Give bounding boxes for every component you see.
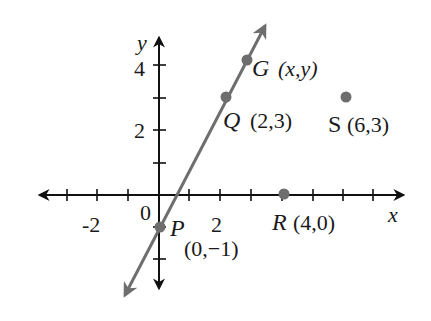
x-axis-label: x xyxy=(387,202,398,227)
label-g: G (x,y) xyxy=(252,55,318,81)
svg-text:(6,3): (6,3) xyxy=(347,112,389,137)
svg-text:(2,3): (2,3) xyxy=(250,108,292,133)
label-r: R (4,0) xyxy=(271,209,335,235)
svg-text:P: P xyxy=(169,215,185,241)
svg-text:(0,−1): (0,−1) xyxy=(184,236,239,261)
label-q: Q (2,3) xyxy=(223,107,292,133)
origin-label: 0 xyxy=(140,200,151,225)
svg-text:G: G xyxy=(252,55,269,81)
y-tick-label-2: 2 xyxy=(134,118,145,143)
label-s: S (6,3) xyxy=(328,111,389,137)
label-p: P (0,−1) xyxy=(169,215,239,261)
x-tick-label-2: 2 xyxy=(211,212,222,237)
svg-text:(4,0): (4,0) xyxy=(293,210,335,235)
y-tick-label-4: 4 xyxy=(134,56,145,81)
svg-text:S: S xyxy=(328,111,341,137)
coordinate-plane: y x 0 -2 2 2 4 G (x,y) Q (2,3) S (6,3) R… xyxy=(0,0,431,321)
y-axis-label: y xyxy=(135,30,147,55)
point-s xyxy=(341,92,352,103)
point-g xyxy=(242,55,253,66)
point-q xyxy=(221,92,232,103)
svg-text:R: R xyxy=(271,209,287,235)
point-p xyxy=(155,222,166,233)
svg-text:Q: Q xyxy=(223,107,240,133)
svg-text:(x,y): (x,y) xyxy=(278,56,318,81)
point-r xyxy=(279,189,290,200)
x-tick-label-neg2: -2 xyxy=(82,212,100,237)
